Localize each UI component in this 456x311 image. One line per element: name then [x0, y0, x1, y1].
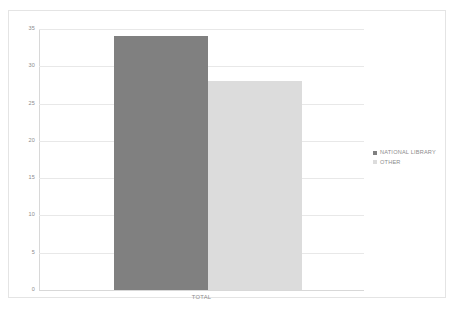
bar-national-library[interactable]: [114, 36, 208, 290]
legend-item-other[interactable]: OTHER: [373, 160, 445, 166]
bar-other[interactable]: [208, 81, 302, 290]
y-axis-tick-label: 10: [13, 212, 35, 218]
y-axis-tick-label: 25: [13, 101, 35, 107]
gridline: [39, 290, 364, 291]
plot-area: [39, 29, 364, 290]
y-axis-tick-labels: 05101520253035: [11, 29, 35, 290]
y-axis-tick-label: 0: [13, 287, 35, 293]
chart-frame: 05101520253035 TOTAL NATIONAL LIBRARY OT…: [8, 10, 446, 298]
legend-item-national-library[interactable]: NATIONAL LIBRARY: [373, 150, 445, 156]
legend-label: NATIONAL LIBRARY: [380, 150, 436, 156]
y-axis-tick-label: 15: [13, 175, 35, 181]
x-axis-category-label: TOTAL: [39, 294, 364, 300]
y-axis-tick-label: 5: [13, 250, 35, 256]
chart-legend: NATIONAL LIBRARY OTHER: [373, 150, 445, 169]
y-axis-tick-label: 20: [13, 138, 35, 144]
legend-label: OTHER: [380, 160, 401, 166]
y-axis-tick-label: 30: [13, 63, 35, 69]
y-axis-tick-label: 35: [13, 26, 35, 32]
legend-swatch-icon: [373, 160, 377, 164]
legend-swatch-icon: [373, 151, 377, 155]
gridline: [39, 29, 364, 30]
